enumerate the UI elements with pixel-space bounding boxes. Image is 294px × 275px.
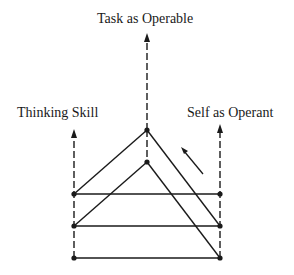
self-axis-arrowhead-icon xyxy=(217,124,223,133)
self-as-operant-label: Self as Operant xyxy=(187,106,273,120)
spiral-thinking-diagram: Task as Operable Thinking Skill Self as … xyxy=(0,0,294,275)
direction-arrow xyxy=(181,147,203,174)
apex2-right xyxy=(147,162,220,258)
apex1-right xyxy=(147,130,220,226)
task-axis xyxy=(144,33,150,162)
thinking-axis-arrowhead-icon xyxy=(71,129,77,138)
left-node-1 xyxy=(71,191,76,196)
left-node-2 xyxy=(71,223,76,228)
diagram-canvas xyxy=(0,0,294,275)
right-node-3 xyxy=(217,255,222,260)
self-operant-axis xyxy=(217,124,223,258)
task-as-operable-label: Task as Operable xyxy=(97,12,193,26)
apex-node-1 xyxy=(144,127,149,132)
direction-arrowhead-icon xyxy=(181,147,188,154)
horizontal-rungs xyxy=(74,194,220,258)
apex-node-2 xyxy=(144,159,149,164)
task-axis-arrowhead-icon xyxy=(144,33,150,42)
right-node-2 xyxy=(217,223,222,228)
left-node-3 xyxy=(71,255,76,260)
thinking-skill-label: Thinking Skill xyxy=(17,106,98,120)
right-node-1 xyxy=(217,191,222,196)
apex1-left xyxy=(74,130,147,194)
